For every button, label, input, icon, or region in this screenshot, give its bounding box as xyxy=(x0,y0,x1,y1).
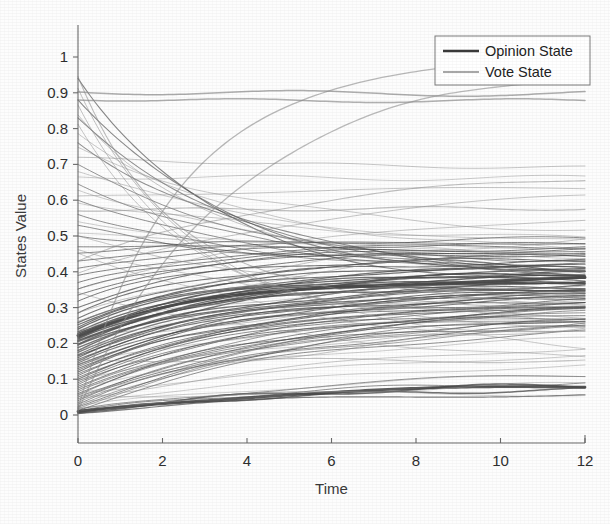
y-tick-label: 0.6 xyxy=(47,191,68,208)
legend[interactable]: Opinion StateVote State xyxy=(435,36,590,85)
y-tick-label: 0 xyxy=(60,406,68,423)
y-axis-label: States Value xyxy=(12,194,29,278)
y-tick-label: 0.9 xyxy=(47,84,68,101)
x-tick-label: 10 xyxy=(492,452,509,469)
y-tick-label: 0.7 xyxy=(47,155,68,172)
x-tick-label: 2 xyxy=(158,452,166,469)
y-tick-label: 0.2 xyxy=(47,334,68,351)
y-tick-label: 0.1 xyxy=(47,370,68,387)
y-tick-label: 0.3 xyxy=(47,299,68,316)
y-tick-label: 0.8 xyxy=(47,120,68,137)
legend-label[interactable]: Opinion State xyxy=(485,43,573,59)
x-tick-label: 6 xyxy=(327,452,335,469)
x-axis-label: Time xyxy=(315,480,348,497)
x-tick-label: 8 xyxy=(412,452,420,469)
x-tick-label: 12 xyxy=(577,452,594,469)
figure-container: 00.10.20.30.40.50.60.70.80.91024681012Ti… xyxy=(0,0,610,524)
legend-label[interactable]: Vote State xyxy=(485,64,552,80)
x-tick-label: 0 xyxy=(74,452,82,469)
y-tick-label: 1 xyxy=(60,48,68,65)
y-tick-label: 0.4 xyxy=(47,263,68,280)
line-chart: 00.10.20.30.40.50.60.70.80.91024681012Ti… xyxy=(0,0,610,524)
x-tick-label: 4 xyxy=(243,452,251,469)
y-tick-label: 0.5 xyxy=(47,227,68,244)
